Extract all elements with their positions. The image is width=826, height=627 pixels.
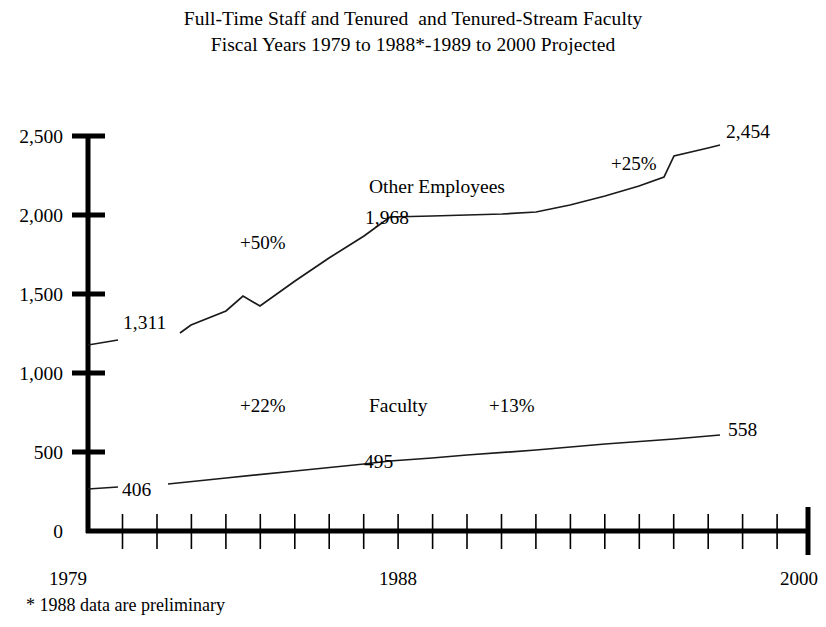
faculty-line [168, 435, 720, 484]
faculty-leader-start [88, 487, 118, 489]
value-label-faculty-2000: 558 [728, 419, 757, 440]
y-tick-label-0: 0 [53, 521, 63, 542]
x-tick-label-1979: 1979 [49, 568, 87, 589]
annotation-other-employees-plus-25: +25% [611, 153, 657, 174]
x-tick-label-1988: 1988 [379, 568, 417, 589]
annotation-faculty-plus-22: +22% [240, 395, 286, 416]
value-label-other-employees-1979: 1,311 [123, 312, 166, 333]
chart-footnote: * 1988 data are preliminary [26, 595, 225, 616]
value-label-faculty-1988: 495 [364, 451, 393, 472]
x-tick-label-2000: 2000 [780, 568, 818, 589]
chart-plot-area: 2,500 2,000 1,500 1,000 500 0 [0, 0, 826, 627]
y-tick-label-500: 500 [34, 442, 63, 463]
annotation-faculty-plus-13: +13% [489, 395, 535, 416]
chart-container: Full-Time Staff and Tenured and Tenured-… [0, 0, 826, 627]
other-employees-leader-start [88, 340, 118, 345]
value-label-faculty-1979: 406 [122, 479, 152, 500]
series-label-faculty: Faculty [369, 395, 428, 416]
value-label-other-employees-1988: 1,968 [365, 207, 409, 228]
annotation-other-employees-plus-50: +50% [240, 232, 286, 253]
y-tick-label-2500: 2,500 [19, 126, 63, 147]
y-tick-label-1500: 1,500 [19, 284, 63, 305]
y-tick-label-2000: 2,000 [19, 205, 63, 226]
series-label-other-employees: Other Employees [369, 176, 505, 197]
y-tick-label-1000: 1,000 [19, 363, 63, 384]
value-label-other-employees-2000: 2,454 [726, 121, 770, 142]
